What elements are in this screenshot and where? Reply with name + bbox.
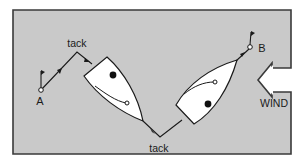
tack-label-top: tack — [67, 37, 87, 49]
wind-label: WIND — [260, 97, 288, 109]
mast-circle — [125, 101, 129, 105]
tack-label-bottom: tack — [149, 142, 169, 154]
mark-b-label: B — [258, 42, 265, 54]
tacking-diagram: A B tack tack WIND — [0, 0, 302, 168]
crew-dot — [205, 101, 212, 108]
mast-circle — [213, 80, 217, 84]
mark-a-label: A — [36, 95, 44, 107]
diagram-frame — [13, 10, 291, 154]
crew-dot — [110, 72, 117, 79]
mark-a-buoy — [39, 88, 44, 93]
mark-b-buoy — [248, 45, 253, 50]
